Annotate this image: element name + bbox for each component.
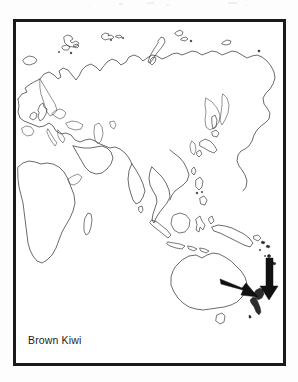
coast-franz-josef-land xyxy=(102,33,114,40)
coast-kamchatka xyxy=(220,94,229,125)
species-caption: Brown Kiwi xyxy=(28,334,81,347)
coast-pacific-islet-a xyxy=(259,249,261,251)
coast-japan-kyushu xyxy=(197,150,202,157)
coast-lesser-sunda-b xyxy=(200,248,209,253)
coast-india xyxy=(128,164,145,204)
coast-east-asia xyxy=(170,150,189,200)
coast-svalbard-south xyxy=(62,45,70,50)
world-map-graphic xyxy=(16,22,283,363)
coast-solomon-islet-b xyxy=(266,245,270,248)
coast-fjl-dot-a xyxy=(110,39,112,41)
coast-franz-josef-islet xyxy=(116,35,122,38)
coast-new-siberian-islands xyxy=(222,40,231,45)
coast-horn-of-africa xyxy=(68,174,82,185)
coast-iceland xyxy=(23,56,37,65)
coast-fjl-dot-b xyxy=(122,37,124,39)
coast-java xyxy=(167,242,185,249)
coast-japan-honshu xyxy=(200,139,217,153)
coast-indochina xyxy=(149,167,170,223)
coast-new-guinea xyxy=(212,225,253,247)
coast-madagascar xyxy=(84,213,92,235)
figure-root: Brown Kiwi xyxy=(0,0,298,382)
coast-eurasia-north xyxy=(18,51,275,191)
coast-philippines-luzon xyxy=(196,177,203,190)
coast-philippines-islet-a xyxy=(196,192,198,194)
coast-new-zealand-south-island xyxy=(250,297,261,315)
coast-japan-hokkaido xyxy=(212,130,219,137)
coast-tasmania xyxy=(216,313,225,324)
coast-wrangel-island xyxy=(258,50,260,52)
coast-europe-mediterranean xyxy=(18,99,132,164)
coast-severnaya-zemlya xyxy=(175,30,183,36)
coast-australia xyxy=(171,253,247,310)
coast-black-sea xyxy=(66,121,83,130)
coast-sumatra xyxy=(150,220,171,238)
coast-great-britain xyxy=(38,103,47,121)
coast-lesser-sunda-a xyxy=(188,246,197,251)
coast-severnaya-zemlya-b xyxy=(181,37,188,41)
coast-sulawesi xyxy=(196,216,205,232)
coast-italy xyxy=(47,129,57,146)
coast-arabia xyxy=(73,146,113,174)
coast-iberia xyxy=(22,126,34,136)
scan-artifact-speckle xyxy=(0,0,298,16)
coast-sz-dot xyxy=(190,40,192,42)
coast-pacific-islet-b xyxy=(264,255,265,256)
range-arrow-diagonal xyxy=(220,279,258,297)
coast-solomon-islet-a xyxy=(261,241,265,244)
coast-sri-lanka xyxy=(139,206,143,213)
coast-stewart-island xyxy=(249,315,251,318)
coast-halmahera xyxy=(209,216,214,224)
coast-balkans-greece xyxy=(58,130,65,143)
coast-sakhalin xyxy=(212,115,217,129)
map-panel xyxy=(13,19,286,366)
coast-borneo xyxy=(171,213,190,233)
coast-vanuatu-islet xyxy=(267,254,271,258)
coast-novaya-zemlya-south xyxy=(150,57,156,65)
coast-africa xyxy=(18,161,75,263)
coast-philippines-islet-b xyxy=(201,191,203,193)
coast-taiwan xyxy=(192,167,196,175)
coast-korea xyxy=(190,141,196,155)
coast-arctic-islet-a xyxy=(58,51,59,52)
coast-ireland xyxy=(30,112,37,120)
coast-bear-island xyxy=(70,52,72,54)
coast-philippines-mindanao xyxy=(200,196,207,205)
coast-new-britain xyxy=(254,235,261,241)
coast-aral-sea xyxy=(110,121,116,129)
coast-caspian-sea xyxy=(94,123,103,144)
coast-scandinavia xyxy=(40,79,57,116)
